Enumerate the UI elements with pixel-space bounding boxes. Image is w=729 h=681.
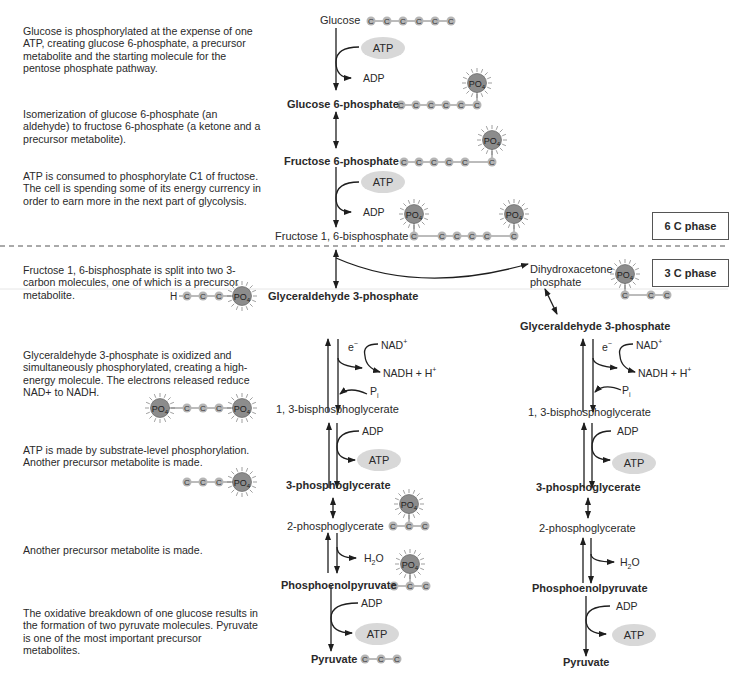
label-nadh: NADH + H+: [638, 366, 691, 379]
label-adp: ADP: [363, 206, 385, 218]
label-electron: e−: [602, 340, 612, 353]
atp-icon: ATP: [361, 37, 405, 59]
atp-icon: ATP: [612, 624, 656, 646]
label-3-phosphoglycerate-right: 3-phosphoglycerate: [536, 481, 641, 493]
label-electron: e−: [348, 340, 358, 353]
label-adp: ADP: [362, 425, 384, 437]
label-3-phosphoglycerate-left: 3-phosphoglycerate: [286, 479, 391, 491]
label-2-phosphoglycerate-right: 2-phosphoglycerate: [539, 522, 636, 534]
label-glucose-6-phosphate: Glucose 6-phosphate: [287, 98, 399, 110]
label-2-phosphoglycerate-left: 2-phosphoglycerate: [287, 520, 384, 532]
atp-icon: ATP: [355, 623, 399, 645]
label-phosphoenolpyruvate-right: Phosphoenolpyruvate: [532, 582, 648, 594]
atp-icon: ATP: [612, 452, 656, 474]
label-pyruvate-left: Pyruvate: [311, 653, 357, 665]
phase-box-6c: 6 C phase: [652, 212, 729, 240]
atp-icon: ATP: [361, 171, 405, 193]
label-13-bisphosphoglycerate-right: 1, 3-bisphosphoglycerate: [528, 406, 651, 418]
label-adp: ADP: [617, 425, 639, 437]
label-nad: NAD+: [636, 338, 662, 351]
label-nadh: NADH + H+: [383, 366, 436, 379]
label-pyruvate-right: Pyruvate: [563, 656, 609, 668]
label-dihydroxyacetone: Dihydroxacetone: [530, 263, 613, 275]
label-phosphoenolpyruvate-left: Phosphoenolpyruvate: [281, 579, 397, 591]
phase-box-3c: 3 C phase: [652, 259, 729, 287]
label-water: H2O: [620, 556, 640, 570]
svg-text:H: H: [170, 291, 177, 302]
label-fructose-16-bisphosphate: Fructose 1, 6-bisphosphate: [275, 230, 408, 242]
label-water: H2O: [364, 552, 384, 566]
label-13-bisphosphoglycerate-left: 1, 3-bisphosphoglycerate: [276, 403, 399, 415]
label-glyceraldehyde-3-phosphate-left: Glyceraldehyde 3-phosphate: [268, 290, 418, 302]
label-dihydroxyacetone-phosphate: phosphate: [530, 276, 581, 288]
label-pi: Pi: [622, 384, 631, 398]
label-adp: ADP: [363, 72, 385, 84]
label-glyceraldehyde-3-phosphate-right: Glyceraldehyde 3-phosphate: [520, 320, 670, 332]
label-adp: ADP: [361, 597, 383, 609]
atp-icon: ATP: [357, 449, 401, 471]
label-glucose: Glucose: [320, 14, 360, 26]
label-pi: Pi: [370, 385, 379, 399]
label-nad: NAD+: [381, 338, 407, 351]
label-adp: ADP: [616, 600, 638, 612]
label-fructose-6-phosphate: Fructose 6-phosphate: [284, 155, 399, 167]
